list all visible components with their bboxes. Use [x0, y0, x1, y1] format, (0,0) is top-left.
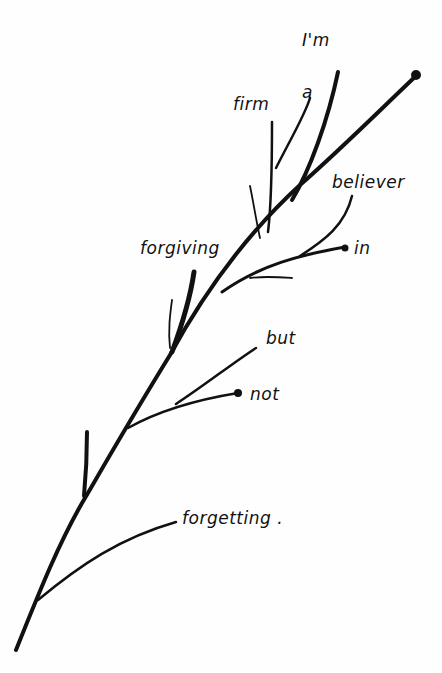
- not-tip-dot: [234, 389, 242, 397]
- stem-tip-dot: [411, 70, 421, 80]
- word-believer: believer: [332, 172, 405, 192]
- word-a: a: [302, 82, 313, 102]
- branch-forgiving: [172, 272, 194, 352]
- branch-forgetting: [38, 522, 176, 600]
- main-stem: [16, 74, 418, 650]
- branch-drawing: I'm a firm believer forgiving in but not…: [0, 0, 442, 673]
- branch-a: [276, 98, 310, 168]
- word-forgiving: forgiving: [140, 238, 220, 258]
- word-but: but: [266, 328, 296, 348]
- word-forgetting: forgetting .: [182, 508, 283, 528]
- in-tip-dot: [342, 245, 349, 252]
- twig-lower-left: [84, 432, 87, 496]
- word-im: I'm: [302, 30, 330, 50]
- branch-strokes: [0, 0, 442, 673]
- word-not: not: [250, 384, 279, 404]
- word-in: in: [354, 238, 371, 258]
- word-firm: firm: [233, 94, 269, 114]
- twig-forgiving-left: [169, 300, 172, 348]
- branch-in: [222, 247, 345, 292]
- twig-in-lower: [250, 277, 292, 278]
- branch-but: [176, 348, 256, 404]
